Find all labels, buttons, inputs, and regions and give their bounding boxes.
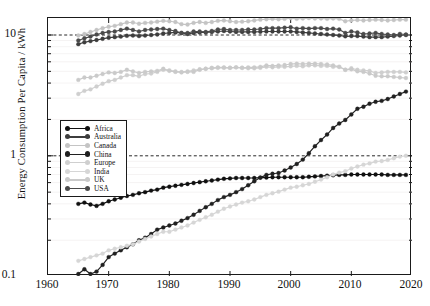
chart-legend: AfricaAustraliaCanadaChinaEuropeIndiaUKU… <box>60 120 127 197</box>
legend-marker-icon <box>65 150 91 159</box>
legend-marker-icon <box>65 133 91 142</box>
legend-item-india[interactable]: India <box>65 167 121 176</box>
x-tick-label: 1970 <box>83 279 131 291</box>
legend-marker-icon <box>65 176 91 185</box>
y-axis-label: Energy Consumption Per Capita / kWh <box>16 0 27 259</box>
legend-item-label: USA <box>91 184 109 193</box>
x-tick-label: 2000 <box>265 279 313 291</box>
x-tick-label: 2020 <box>387 279 430 291</box>
legend-item-china[interactable]: China <box>65 150 121 159</box>
energy-consumption-chart: Energy Consumption Per Capita / kWh 10 1… <box>0 0 430 306</box>
x-tick-label: 1960 <box>23 279 71 291</box>
x-tick-label: 2010 <box>326 279 374 291</box>
legend-marker-icon <box>65 184 91 193</box>
x-tick-label: 1980 <box>144 279 192 291</box>
legend-marker-icon <box>65 141 91 150</box>
legend-item-uk[interactable]: UK <box>65 176 121 185</box>
y-tick-label: 0.1 <box>0 269 16 281</box>
legend-marker-icon <box>65 158 91 167</box>
x-tick-label: 1990 <box>205 279 253 291</box>
y-tick-label: 1 <box>0 149 16 161</box>
legend-item-australia[interactable]: Australia <box>65 133 121 142</box>
y-tick-label: 10 <box>0 28 16 40</box>
legend-marker-icon <box>65 124 91 133</box>
legend-marker-icon <box>65 167 91 176</box>
legend-item-africa[interactable]: Africa <box>65 124 121 133</box>
legend-item-europe[interactable]: Europe <box>65 158 121 167</box>
legend-item-usa[interactable]: USA <box>65 184 121 193</box>
legend-item-canada[interactable]: Canada <box>65 141 121 150</box>
